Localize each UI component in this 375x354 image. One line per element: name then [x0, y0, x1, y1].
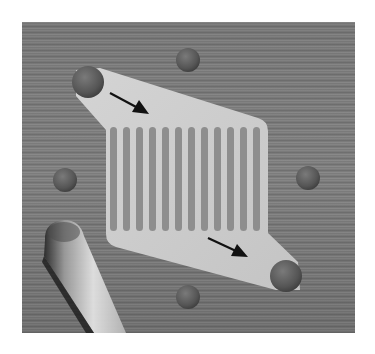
spot-left: [53, 168, 77, 192]
spot-top: [176, 48, 200, 72]
inlet-reservoir: [72, 66, 104, 98]
outlet-reservoir: [270, 260, 302, 292]
spot-right: [296, 166, 320, 190]
spot-bottom: [176, 285, 200, 309]
microfluidic-chip-illustration: [0, 0, 375, 354]
figure: [0, 0, 375, 354]
